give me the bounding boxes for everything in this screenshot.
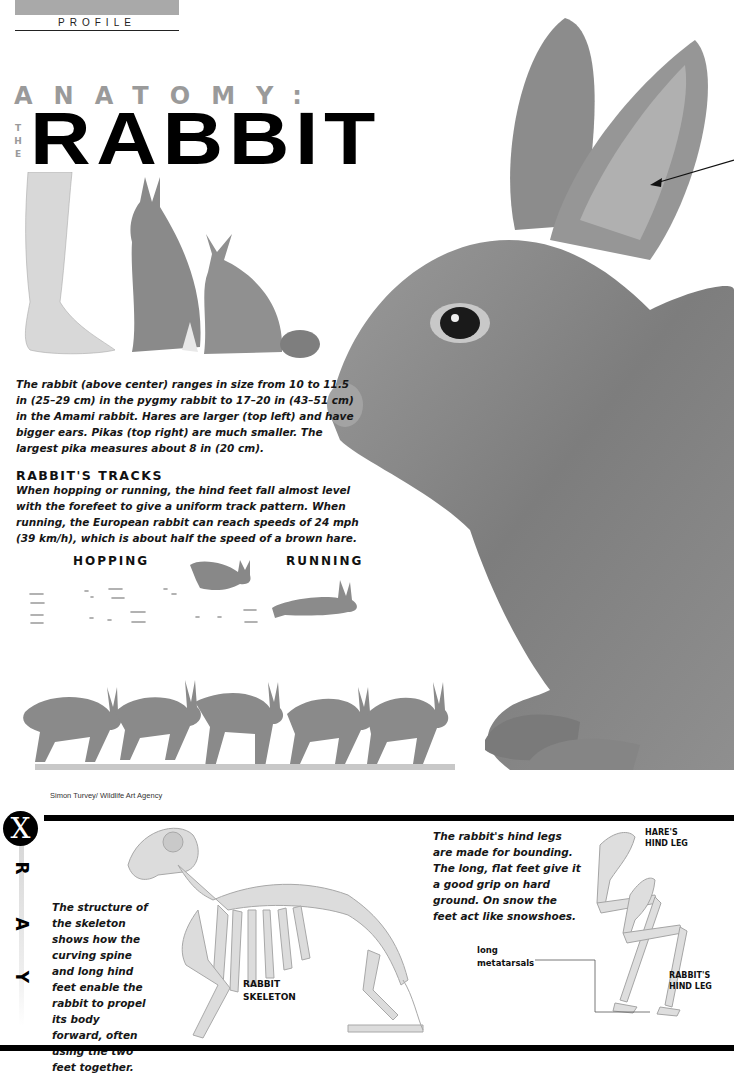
xray-badge: X <box>3 811 38 846</box>
title-the-vertical: T H E <box>12 122 24 161</box>
illustration-credit: Simon Turvey/ Wildlife Art Agency <box>50 791 162 800</box>
the-letter: H <box>14 135 22 148</box>
skeleton-label-line2: SKELETON <box>243 991 296 1004</box>
section-label: PROFILE <box>15 17 179 28</box>
running-sequence-illustration <box>15 672 475 777</box>
rabbit-leg-label: RABBIT'S HIND LEG <box>669 970 712 992</box>
profile-tab-bar <box>15 0 179 15</box>
track-prints-illustration <box>0 560 380 640</box>
hind-legs-description: The rabbit's hind legs are made for boun… <box>433 828 583 924</box>
rabbit-leg-label-line1: RABBIT'S <box>669 970 712 981</box>
metatarsals-label-line1: long <box>477 944 534 957</box>
metatarsals-label: long metatarsals <box>477 944 534 970</box>
rabbit-leg-label-line2: HIND LEG <box>669 981 712 992</box>
hare-leg-label: HARE'S HIND LEG <box>645 827 688 849</box>
rabbit-skeleton-illustration <box>118 820 428 1040</box>
metatarsals-leader-line <box>535 955 655 1015</box>
skeleton-label-line1: RABBIT <box>243 978 296 991</box>
tracks-body: When hopping or running, the hind feet f… <box>16 482 371 546</box>
rabbit-portrait-illustration <box>320 10 734 770</box>
xray-letter-r: R <box>12 856 32 880</box>
hare-leg-label-line2: HIND LEG <box>645 838 688 849</box>
xray-letter-y: Y <box>12 965 32 989</box>
tracks-heading: RABBIT'S TRACKS <box>16 468 163 483</box>
header-rule <box>15 30 179 31</box>
metatarsals-label-line2: metatarsals <box>477 957 534 970</box>
the-letter: T <box>15 122 21 135</box>
hare-leg-label-line1: HARE'S <box>645 827 688 838</box>
the-letter: E <box>15 148 21 161</box>
skeleton-label: RABBIT SKELETON <box>243 978 296 1004</box>
xray-letter-a: A <box>12 912 32 936</box>
bottom-rule <box>0 1045 734 1051</box>
size-caption: The rabbit (above center) ranges in size… <box>16 376 356 456</box>
size-comparison-illustration <box>20 172 330 362</box>
